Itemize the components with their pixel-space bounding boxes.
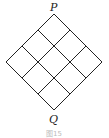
grid-line-a-1 [38, 30, 86, 78]
grid-line-b-3 [54, 62, 102, 110]
diamond-grid [6, 14, 102, 110]
label-q: Q [49, 113, 58, 126]
figure-caption: 图15 [46, 130, 62, 138]
grid-line-b-1 [22, 30, 70, 78]
grid-diagram: P Q 图15 [0, 0, 109, 138]
grid-line-b-0 [6, 14, 54, 62]
grid-line-a-0 [54, 14, 102, 62]
label-p: P [49, 1, 58, 14]
grid-line-a-2 [22, 46, 70, 94]
grid-line-b-2 [38, 46, 86, 94]
grid-line-a-3 [6, 62, 54, 110]
